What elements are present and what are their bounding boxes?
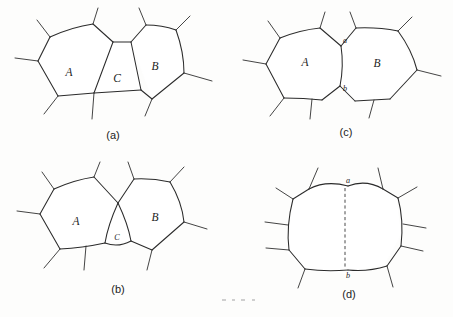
panel-d-free-edge-8 bbox=[401, 246, 423, 251]
panel-a-free-edge-8 bbox=[92, 93, 94, 119]
panel-c-free-edge-4 bbox=[398, 17, 412, 31]
panel-a-free-edge-3 bbox=[139, 8, 146, 25]
panel-c-free-edge-5 bbox=[243, 60, 266, 64]
panel-c-caption: (c) bbox=[340, 126, 353, 138]
scan-speck-4 bbox=[252, 299, 255, 301]
panel-c-vertex-label-b: b bbox=[343, 84, 347, 93]
panel-b-free-edge-6 bbox=[184, 222, 207, 229]
panel-b-region-label-B: B bbox=[151, 211, 158, 223]
panel-b-region-label-A: A bbox=[71, 215, 80, 227]
panel-d-free-edge-3 bbox=[276, 188, 293, 199]
panel-d-vertex-label-a: a bbox=[346, 176, 350, 185]
panel-a-region-label-A: A bbox=[64, 66, 73, 78]
panel-d-free-edge-10 bbox=[387, 266, 393, 287]
panel-b-free-edge-9 bbox=[147, 250, 152, 270]
panel-c-free-edge-9 bbox=[369, 100, 374, 118]
scan-artifacts bbox=[222, 299, 255, 301]
panel-a-free-edge-5 bbox=[15, 58, 38, 61]
panel-d-free-edge-7 bbox=[266, 248, 289, 250]
panel-a-free-edge-4 bbox=[176, 16, 190, 30]
panel-c-free-edge-1 bbox=[268, 21, 280, 38]
panel-a-region-label-C: C bbox=[113, 72, 121, 84]
panel-b-free-edge-7 bbox=[44, 249, 60, 268]
panel-d-merged-cell-face bbox=[287, 180, 401, 274]
panel-b-free-edge-2 bbox=[94, 162, 100, 177]
panel-d-free-edge-4 bbox=[398, 187, 417, 198]
panel-a-caption: (a) bbox=[106, 129, 119, 141]
panel-c-free-edge-8 bbox=[310, 99, 312, 119]
cellular-network-figure: A C B (a) bbox=[0, 0, 453, 317]
panel-b-free-edge-5 bbox=[17, 211, 40, 214]
panel-b-free-edge-3 bbox=[128, 162, 134, 179]
scan-speck-3 bbox=[241, 299, 245, 301]
panel-b-free-edge-1 bbox=[42, 172, 54, 189]
panel-b-free-edge-8 bbox=[84, 246, 86, 270]
panel-b: A C B (b) bbox=[17, 162, 207, 295]
panel-d: a b (d) bbox=[265, 168, 426, 300]
panel-a-free-edge-6 bbox=[184, 73, 212, 81]
panel-a-free-edge-9 bbox=[145, 99, 152, 116]
panel-a-free-edge-7 bbox=[44, 96, 58, 114]
panel-a-free-edge-1 bbox=[37, 20, 50, 37]
scan-speck-2 bbox=[232, 299, 235, 301]
panel-b-free-edge-4 bbox=[170, 167, 184, 182]
panel-a-region-label-B: B bbox=[151, 60, 158, 72]
panel-d-vertex-label-b: b bbox=[346, 271, 350, 280]
panel-d-free-edge-9 bbox=[298, 269, 305, 288]
scan-speck-1 bbox=[222, 299, 226, 301]
panel-c-region-label-A: A bbox=[300, 56, 309, 68]
panel-c-free-edge-7 bbox=[270, 98, 284, 116]
panel-c-vertex-label-a: a bbox=[343, 36, 347, 45]
panel-d-free-edge-5 bbox=[265, 222, 288, 225]
panel-c-free-edge-3 bbox=[350, 12, 356, 28]
panel-a-free-edge-2 bbox=[93, 8, 98, 24]
panel-c-free-edge-2 bbox=[320, 12, 325, 28]
figure-root: A C B (a) bbox=[0, 0, 453, 317]
panel-c-free-edge-6 bbox=[417, 70, 441, 76]
panel-a: A C B (a) bbox=[15, 8, 212, 141]
panel-c-region-label-B: B bbox=[373, 57, 380, 69]
panel-b-caption: (b) bbox=[111, 283, 124, 295]
panel-d-free-edge-6 bbox=[403, 224, 426, 228]
panel-c: A B a b (c) bbox=[243, 12, 441, 138]
panel-d-caption: (d) bbox=[342, 288, 355, 300]
panel-b-region-label-C: C bbox=[114, 233, 120, 242]
